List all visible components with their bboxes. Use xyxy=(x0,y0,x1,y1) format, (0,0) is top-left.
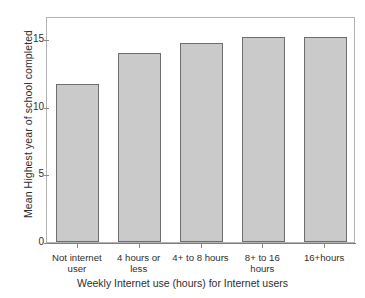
y-axis-tick-label: 10 xyxy=(22,102,44,112)
bar xyxy=(304,37,347,242)
x-axis-title: Weekly Internet use (hours) for Internet… xyxy=(0,277,365,289)
x-axis-category-line: 4+ to 8 hours xyxy=(167,252,235,263)
bar xyxy=(118,53,161,242)
y-axis-tick-labels: 051015 xyxy=(22,0,44,298)
plot-area xyxy=(46,17,355,243)
y-axis-tick-mark xyxy=(44,108,49,109)
x-axis-category-label: 4 hours orless xyxy=(105,252,173,275)
x-axis-category-line: Not internet xyxy=(43,252,111,263)
x-axis-category-label: 4+ to 8 hours xyxy=(167,252,235,263)
x-axis-tick-mark xyxy=(201,243,202,248)
y-axis-tick-label: 15 xyxy=(22,34,44,44)
y-axis-tick-label: 0 xyxy=(22,237,44,247)
x-axis-category-label: 8+ to 16hours xyxy=(228,252,296,275)
y-axis-tick-mark xyxy=(44,175,49,176)
bar xyxy=(242,37,285,242)
x-axis-category-label: Not internetuser xyxy=(43,252,111,275)
x-axis-category-line: hours xyxy=(228,263,296,274)
x-axis-category-line: 16+hours xyxy=(290,252,358,263)
x-axis-tick-mark xyxy=(262,243,263,248)
y-axis-tick-mark xyxy=(44,40,49,41)
bar-chart-figure: Mean Highest year of school completed 05… xyxy=(0,0,365,298)
bar xyxy=(180,43,223,242)
x-axis-tick-mark xyxy=(77,243,78,248)
y-axis-tick-mark xyxy=(44,243,49,244)
x-axis-tick-mark xyxy=(139,243,140,248)
x-axis-category-line: less xyxy=(105,263,173,274)
bar xyxy=(56,84,99,242)
x-axis-category-line: 8+ to 16 xyxy=(228,252,296,263)
x-axis-tick-mark xyxy=(324,243,325,248)
x-axis-category-line: 4 hours or xyxy=(105,252,173,263)
x-axis-category-line: user xyxy=(43,263,111,274)
x-axis-category-label: 16+hours xyxy=(290,252,358,263)
bars-container xyxy=(47,18,354,242)
y-axis-tick-label: 5 xyxy=(22,169,44,179)
